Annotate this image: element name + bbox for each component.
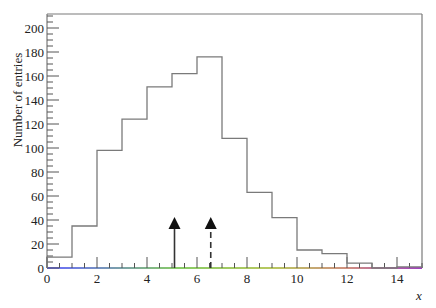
y-tick-label: 60 (31, 189, 44, 204)
annotation-arrows (169, 217, 217, 268)
y-tick-label: 200 (25, 21, 45, 36)
histogram-series (47, 57, 422, 268)
y-tick-label: 80 (31, 165, 44, 180)
x-tick-label: 0 (44, 271, 51, 286)
x-tick-label: 12 (341, 271, 354, 286)
y-tick-label: 20 (31, 237, 44, 252)
arrow-head-icon (205, 217, 217, 229)
y-tick-label: 180 (25, 45, 45, 60)
y-axis: 020406080100120140160180200 (25, 16, 60, 276)
x-axis: 02468101214 (44, 257, 422, 286)
y-axis-title: Number of entries (10, 53, 25, 148)
y-tick-label: 160 (25, 69, 45, 84)
x-tick-label: 8 (244, 271, 251, 286)
y-tick-label: 40 (31, 213, 44, 228)
x-tick-label: 14 (391, 271, 405, 286)
plot-frame (47, 14, 422, 269)
x-tick-label: 6 (194, 271, 201, 286)
histogram-outline (47, 57, 422, 268)
x-tick-label: 10 (291, 271, 304, 286)
y-tick-label: 120 (25, 117, 45, 132)
x-axis-title: x (415, 288, 422, 303)
arrow-head-icon (169, 217, 181, 229)
y-tick-label: 140 (25, 93, 45, 108)
x-tick-label: 2 (94, 271, 101, 286)
y-tick-label: 100 (25, 141, 45, 156)
x-tick-label: 4 (144, 271, 151, 286)
histogram-chart: 020406080100120140160180200 02468101214 … (0, 0, 436, 308)
